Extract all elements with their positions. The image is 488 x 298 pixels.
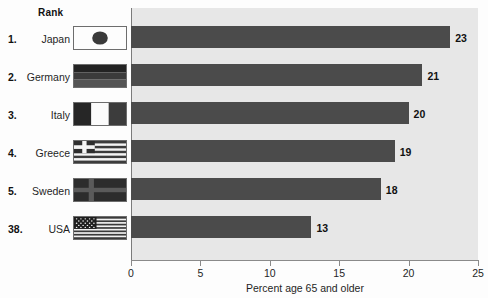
x-tick-label: 20 (403, 267, 415, 279)
bar-usa (131, 216, 311, 238)
rank-column-header: Rank (38, 7, 63, 18)
x-tick-label: 0 (128, 267, 134, 279)
x-axis-line (131, 260, 479, 261)
country-name: USA (12, 223, 70, 235)
x-tick (339, 261, 340, 266)
bar-japan (131, 26, 450, 48)
table-row: 4.Greece (0, 137, 131, 175)
table-row: 1.Japan (0, 23, 131, 61)
x-tick (409, 261, 410, 266)
flag-sweden-icon (73, 178, 127, 202)
bar-value-label: 20 (414, 108, 426, 120)
x-tick (270, 261, 271, 266)
country-name: Greece (12, 147, 70, 159)
chart-figure: Rank 1.Japan2.Germany3.Italy4.Greece5.Sw… (0, 0, 488, 298)
flag-japan-icon (73, 26, 127, 50)
country-name: Sweden (12, 185, 70, 197)
table-row: 5.Sweden (0, 175, 131, 213)
x-tick-label: 5 (197, 267, 203, 279)
bar-germany (131, 64, 422, 86)
bar-value-label: 21 (427, 70, 439, 82)
bar-value-label: 13 (316, 222, 328, 234)
x-tick-label: 10 (264, 267, 276, 279)
x-axis-label: Percent age 65 and older (131, 282, 479, 294)
bar-value-label: 23 (455, 32, 467, 44)
flag-usa-icon (73, 216, 127, 240)
flag-italy-icon (73, 102, 127, 126)
bar-value-label: 19 (400, 146, 412, 158)
country-name: Japan (12, 33, 70, 45)
bar-greece (131, 140, 395, 162)
country-name: Italy (12, 109, 70, 121)
table-row: 3.Italy (0, 99, 131, 137)
table-row: 38.USA (0, 213, 131, 251)
bar-italy (131, 102, 409, 124)
flag-germany-icon (73, 64, 127, 88)
x-tick (131, 261, 132, 266)
x-tick (200, 261, 201, 266)
x-tick (478, 261, 479, 266)
flag-greece-icon (73, 140, 127, 164)
x-tick-label: 15 (333, 267, 345, 279)
x-tick-label: 25 (472, 267, 484, 279)
country-name: Germany (12, 71, 70, 83)
table-row: 2.Germany (0, 61, 131, 99)
bar-value-label: 18 (386, 184, 398, 196)
bar-sweden (131, 178, 381, 200)
